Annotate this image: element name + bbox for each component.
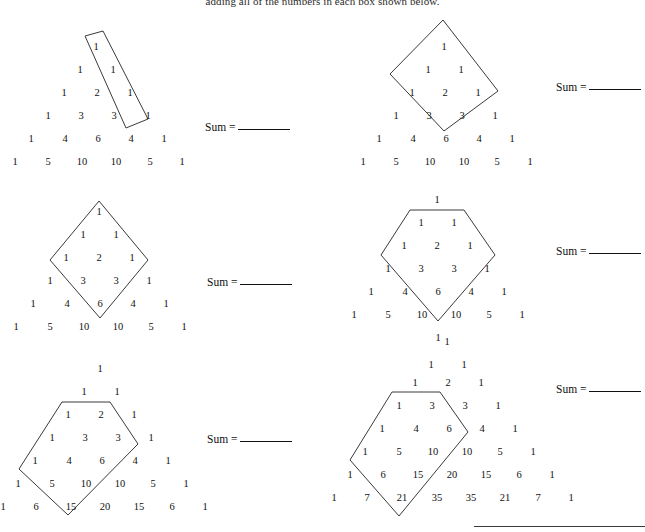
tri-cell: 1: [331, 493, 336, 504]
tri-cell: 5: [497, 447, 502, 458]
tri-cell: 5: [147, 157, 152, 168]
tri-cell: 15: [413, 470, 424, 481]
tri-cell: 2: [434, 241, 439, 252]
tri-cell: 1: [93, 42, 98, 53]
tri-cell: 15: [66, 502, 77, 513]
tri-cell: 10: [459, 157, 470, 168]
tri-cell: 1: [475, 88, 480, 99]
tri-cell: 1: [418, 218, 423, 229]
tri-cell: 5: [148, 322, 153, 333]
tri-cell: 5: [393, 157, 398, 168]
tri-cell: 1: [351, 310, 356, 321]
tri-cell: 1: [97, 364, 102, 375]
tri-cell: 1: [441, 42, 446, 53]
tri-cell: 4: [128, 134, 133, 145]
outline-diamond: [0, 186, 330, 336]
tri-cell: 1: [202, 502, 207, 513]
sum-blank-line[interactable]: [589, 381, 641, 392]
tri-cell: 1: [409, 88, 414, 99]
tri-cell: 1: [379, 424, 384, 435]
tri-cell: 2: [442, 88, 447, 99]
tri-cell: 10: [425, 157, 436, 168]
tri-cell: 3: [429, 401, 434, 412]
tri-cell: 4: [476, 134, 481, 145]
sum-label-top-left: Sum =: [205, 119, 290, 133]
tri-cell: 10: [113, 322, 124, 333]
sum-blank-line[interactable]: [238, 119, 290, 130]
tri-cell: 5: [396, 447, 401, 458]
tri-cell: 2: [445, 378, 450, 389]
sum-blank-line[interactable]: [589, 243, 641, 254]
tri-cell: 6: [33, 502, 38, 513]
tri-cell: 1: [385, 264, 390, 275]
tri-cell: 4: [64, 299, 69, 310]
tri-cell: 3: [418, 264, 423, 275]
sum-text: Sum =: [207, 276, 237, 288]
tri-cell: 6: [443, 134, 448, 145]
tri-cell: 5: [494, 157, 499, 168]
panel-top-left: 1 1 1 1 2 1 1 3 3 1 1 4 6 4 1 1 5 10 10 …: [0, 14, 330, 180]
tri-cell: 1: [549, 470, 554, 481]
tri-cell: 1: [458, 65, 463, 76]
tri-cell: 1: [165, 456, 170, 467]
tri-cell: 1: [393, 111, 398, 122]
tri-cell: 20: [447, 470, 458, 481]
tri-cell: 10: [79, 322, 90, 333]
tri-cell: 15: [134, 502, 145, 513]
tri-cell: 6: [97, 299, 102, 310]
tri-cell: 7: [364, 493, 369, 504]
tri-cell: 4: [410, 134, 415, 145]
tri-cell: 1: [492, 111, 497, 122]
sum-label-bottom-left: Sum =: [207, 431, 292, 445]
tri-cell: 1: [28, 134, 33, 145]
panel-bottom-right: 1 1 1 1 2 1 1 3 3 1 1 4 6 4 1 1 5 10 10 …: [330, 330, 645, 532]
tri-cell: 4: [62, 134, 67, 145]
tri-cell: 1: [131, 410, 136, 421]
tri-cell: 10: [81, 479, 92, 490]
tri-cell: 15: [481, 470, 492, 481]
tri-cell: 3: [462, 401, 467, 412]
sum-blank-line[interactable]: [589, 79, 641, 90]
tri-cell: 1: [519, 310, 524, 321]
tri-cell: 4: [468, 287, 473, 298]
tri-cell: 1: [96, 207, 101, 218]
tri-cell: 10: [451, 310, 462, 321]
tri-cell: 21: [397, 493, 408, 504]
tri-cell: 1: [362, 447, 367, 458]
tri-cell: 1: [484, 264, 489, 275]
tri-cell: 1: [461, 360, 466, 371]
tri-cell: 1: [181, 322, 186, 333]
tri-cell: 1: [12, 157, 17, 168]
tri-cell: 1: [129, 253, 134, 264]
tri-cell: 6: [380, 470, 385, 481]
worksheet-page: adding all of the numbers in each box sh…: [0, 0, 645, 532]
tri-cell: 3: [115, 433, 120, 444]
tri-cell: 3: [80, 276, 85, 287]
tri-cell: 1: [368, 287, 373, 298]
tri-cell: 1: [412, 378, 417, 389]
sum-text: Sum =: [556, 245, 586, 257]
tri-cell: 3: [426, 111, 431, 122]
tri-cell: 1: [428, 360, 433, 371]
tri-cell: 5: [45, 157, 50, 168]
tri-cell: 5: [150, 479, 155, 490]
tri-cell: 6: [516, 470, 521, 481]
tri-cell: 3: [78, 111, 83, 122]
sum-blank-line[interactable]: [240, 431, 292, 442]
tri-cell: 10: [428, 447, 439, 458]
tri-cell: 4: [66, 456, 71, 467]
tri-cell: 6: [435, 287, 440, 298]
sum-blank-line[interactable]: [240, 274, 292, 285]
sum-label-top-right: Sum =: [556, 79, 641, 93]
tri-cell: 3: [113, 276, 118, 287]
panel-middle-right: 1 1 1 1 2 1 1 3 3 1 1 4 6 4 1 1 5 10 10 …: [330, 186, 645, 336]
tri-cell: 10: [115, 479, 126, 490]
tri-cell: 1: [77, 65, 82, 76]
tri-cell: 6: [99, 456, 104, 467]
tri-cell: 3: [459, 111, 464, 122]
instruction-text: adding all of the numbers in each box sh…: [0, 0, 645, 7]
tri-cell: 1: [444, 337, 449, 348]
tri-cell: 1: [401, 241, 406, 252]
tri-cell: 1: [568, 493, 573, 504]
tri-cell: 1: [45, 111, 50, 122]
